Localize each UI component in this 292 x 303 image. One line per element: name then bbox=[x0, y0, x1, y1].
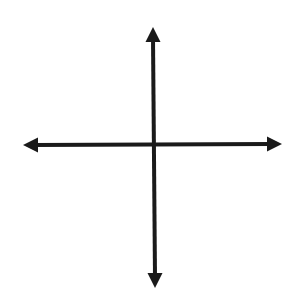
vertical-axis bbox=[146, 27, 163, 288]
right-arrowhead-icon bbox=[267, 137, 282, 152]
y-axis-line bbox=[153, 38, 155, 277]
left-arrowhead-icon bbox=[23, 138, 38, 153]
up-arrowhead-icon bbox=[146, 27, 161, 42]
down-arrowhead-icon bbox=[148, 273, 163, 288]
coordinate-axes bbox=[0, 0, 292, 303]
diagram-canvas bbox=[0, 0, 292, 303]
